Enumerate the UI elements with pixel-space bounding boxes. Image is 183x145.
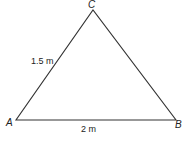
vertex-label-c: C bbox=[88, 0, 96, 10]
edge-label-ac: 1.5 m bbox=[31, 56, 54, 66]
vertex-label-b: B bbox=[175, 119, 182, 130]
edge-label-ab: 2 m bbox=[81, 124, 96, 134]
triangle-diagram: C A B 1.5 m 2 m bbox=[0, 0, 183, 145]
vertex-label-a: A bbox=[5, 117, 13, 128]
